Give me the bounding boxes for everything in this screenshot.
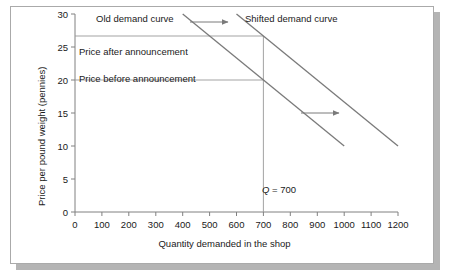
y-axis-title: Price per pound weight (pennies) xyxy=(36,67,47,206)
quantity-annotation: Q = 700 xyxy=(262,184,296,195)
x-tick-label-800: 800 xyxy=(275,220,305,230)
x-tick-label-700: 700 xyxy=(248,220,278,230)
y-tick-label-20: 20 xyxy=(48,76,68,86)
x-tick-label-500: 500 xyxy=(195,220,225,230)
x-tick-label-1100: 1100 xyxy=(356,220,386,230)
y-tick-label-15: 15 xyxy=(48,109,68,119)
x-axis-title: Quantity demanded in the shop xyxy=(0,238,449,249)
x-tick-label-100: 100 xyxy=(87,220,117,230)
y-tick-label-0: 0 xyxy=(48,208,68,218)
shifted-demand-curve-label: Shifted demand curve xyxy=(245,13,337,24)
y-tick-label-5: 5 xyxy=(48,175,68,185)
x-tick-label-1200: 1200 xyxy=(383,220,413,230)
quantity-value: 700 xyxy=(280,184,296,195)
x-tick-label-400: 400 xyxy=(168,220,198,230)
x-tick-label-600: 600 xyxy=(222,220,252,230)
quantity-equals: = xyxy=(269,184,280,195)
x-tick-label-300: 300 xyxy=(141,220,171,230)
y-tick-label-25: 25 xyxy=(48,43,68,53)
old-demand-curve-label: Old demand curve xyxy=(96,13,174,24)
y-tick-label-10: 10 xyxy=(48,142,68,152)
price-after-announcement-label: Price after announcement xyxy=(79,46,188,57)
price-before-announcement-label: Price before announcement xyxy=(79,73,196,84)
x-tick-label-0: 0 xyxy=(60,220,90,230)
x-tick-label-200: 200 xyxy=(114,220,144,230)
x-tick-label-900: 900 xyxy=(302,220,332,230)
x-tick-label-1000: 1000 xyxy=(329,220,359,230)
y-tick-label-30: 30 xyxy=(48,10,68,20)
